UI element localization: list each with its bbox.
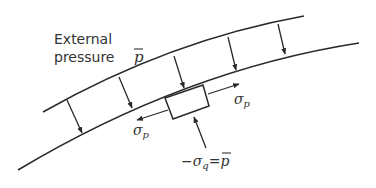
stress-element	[165, 85, 209, 119]
pressure-arrow-5	[278, 24, 285, 54]
sigma-p-right-label: σp	[234, 91, 251, 109]
sigma-p-left-label: σp	[133, 122, 150, 140]
title-line-2: pressure	[54, 49, 114, 65]
pressure-arrow-1	[67, 100, 82, 133]
pressure-arrow-4	[228, 37, 236, 70]
shell-pressure-diagram: External pressure p σp σp −σq=p	[0, 0, 376, 188]
sigma-q-label: −σq=p	[181, 153, 229, 171]
title-line-1: External	[54, 31, 112, 47]
sigma-p-left-arrow	[137, 110, 168, 120]
pressure-arrow-2	[119, 77, 132, 108]
pressure-symbol: p	[134, 48, 144, 66]
pressure-arrow-3	[174, 56, 184, 88]
sigma-q-arrow	[194, 117, 206, 148]
